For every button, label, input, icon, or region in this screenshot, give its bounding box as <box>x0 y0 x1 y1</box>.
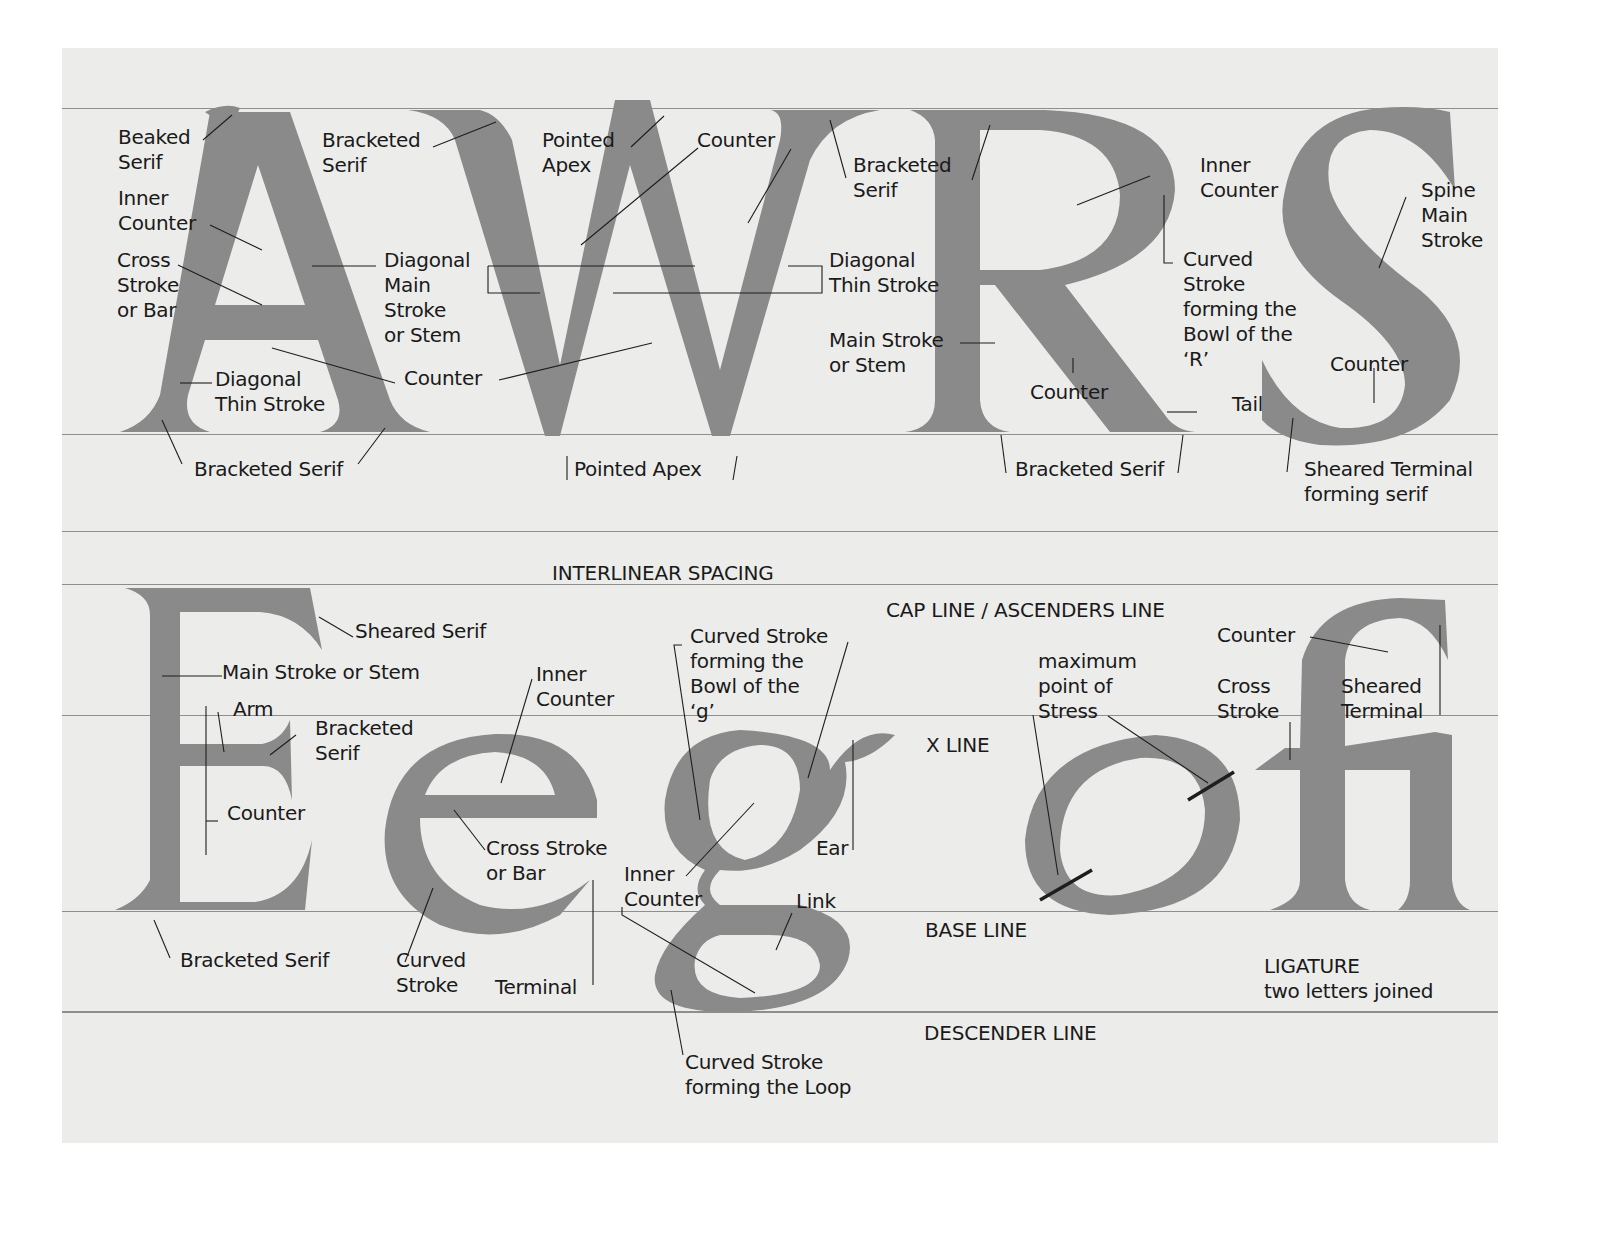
label-w-diagonal-thin: Diagonal Thin Stroke <box>829 248 939 298</box>
label-g-link: Link <box>796 889 836 914</box>
x-line-label: X LINE <box>926 733 990 758</box>
label-s-counter: Counter <box>1330 352 1408 377</box>
interlinear-spacing-label: INTERLINEAR SPACING <box>552 561 774 586</box>
label-fi-counter: Counter <box>1217 623 1295 648</box>
label-le-curved-stroke: Curved Stroke <box>396 948 466 998</box>
label-r-tail: Tail <box>1232 392 1263 417</box>
label-le-cross-stroke: Cross Stroke or Bar <box>486 836 607 886</box>
label-fi-cross-stroke: Cross Stroke <box>1217 674 1279 724</box>
label-r-main-stroke: Main Stroke or Stem <box>829 328 944 378</box>
label-r-inner-counter: Inner Counter <box>1200 153 1278 203</box>
label-s-sheared-terminal: Sheared Terminal forming serif <box>1304 457 1473 507</box>
label-s-spine: Spine Main Stroke <box>1421 178 1483 253</box>
label-e-bracketed-serif: Bracketed Serif <box>315 716 414 766</box>
label-a-diagonal-main: Diagonal Main Stroke or Stem <box>384 248 470 348</box>
label-r-curved-stroke: Curved Stroke forming the Bowl of the ‘R… <box>1183 247 1296 372</box>
label-o-stress: maximum point of Stress <box>1038 649 1137 724</box>
label-fi-ligature: LIGATURE two letters joined <box>1264 954 1433 1004</box>
label-e-counter: Counter <box>227 801 305 826</box>
label-a-diagonal-thin: Diagonal Thin Stroke <box>215 367 325 417</box>
label-g-ear: Ear <box>816 836 848 861</box>
label-g-curved-loop: Curved Stroke forming the Loop <box>685 1050 851 1100</box>
label-le-terminal: Terminal <box>495 975 577 1000</box>
label-e-bracketed-serif-bottom: Bracketed Serif <box>180 948 329 973</box>
label-a-beaked-serif: Beaked Serif <box>118 125 190 175</box>
label-w-bracketed-serif-right: Bracketed Serif <box>853 153 952 203</box>
label-w-bracketed-serif-left: Bracketed Serif <box>322 128 421 178</box>
base-line-label: BASE LINE <box>925 918 1027 943</box>
label-r-bracketed-serif: Bracketed Serif <box>1015 457 1164 482</box>
letter-o <box>1025 735 1240 915</box>
label-a-cross-stroke: Cross Stroke or Bar <box>117 248 179 323</box>
label-e-arm: Arm <box>233 697 273 722</box>
label-w-pointed-apex-top: Pointed Apex <box>542 128 615 178</box>
label-g-curved-bowl: Curved Stroke forming the Bowl of the ‘g… <box>690 624 828 724</box>
label-g-inner-counter: Inner Counter <box>624 862 702 912</box>
letter-E <box>115 588 322 910</box>
label-le-inner-counter: Inner Counter <box>536 662 614 712</box>
label-a-counter: Counter <box>404 366 482 391</box>
label-fi-sheared-terminal: Sheared Terminal <box>1341 674 1423 724</box>
cap-line-label: CAP LINE / ASCENDERS LINE <box>886 598 1165 623</box>
descender-line-label: DESCENDER LINE <box>924 1021 1096 1046</box>
label-e-sheared-serif: Sheared Serif <box>355 619 486 644</box>
label-r-counter: Counter <box>1030 380 1108 405</box>
label-a-inner-counter: Inner Counter <box>118 186 196 236</box>
label-e-main-stroke: Main Stroke or Stem <box>222 660 420 685</box>
letter-e <box>385 734 597 935</box>
label-a-bracketed-serif: Bracketed Serif <box>194 457 343 482</box>
label-w-counter: Counter <box>697 128 775 153</box>
label-w-pointed-apex-bottom: Pointed Apex <box>574 457 702 482</box>
